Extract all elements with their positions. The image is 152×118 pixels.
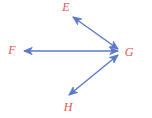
geometry-figure: E F G H	[0, 0, 152, 118]
segment-ge	[73, 17, 118, 49]
point-label-g: G	[125, 46, 134, 58]
point-label-f: F	[8, 44, 15, 56]
point-label-h: H	[64, 101, 73, 113]
segment-gh	[69, 55, 118, 95]
ray-group	[24, 17, 118, 95]
figure-canvas	[0, 0, 152, 118]
point-label-e: E	[62, 1, 69, 13]
